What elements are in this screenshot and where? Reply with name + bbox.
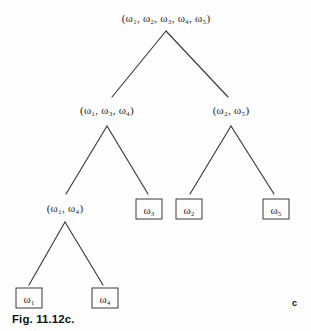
- tree-leaf-omega5: ω₅: [263, 199, 290, 220]
- tree-leaf-omega3: ω₃: [136, 199, 163, 220]
- tree-node-root: (ω₁, ω₂, ω₃, ω₄, ω₅): [122, 12, 211, 24]
- panel-letter: c: [292, 298, 297, 308]
- edge-n25-to-leaf2: [190, 126, 231, 194]
- tree-edges: [0, 0, 311, 331]
- edge-root-to-n25: [166, 31, 228, 97]
- figure-caption: Fig. 11.12c.: [12, 313, 75, 325]
- edge-n25-to-leaf5: [231, 126, 274, 194]
- edge-n134-to-n14: [66, 126, 107, 194]
- tree-leaf-omega2: ω₂: [176, 199, 203, 220]
- tree-leaf-omega1: ω₁: [16, 288, 43, 309]
- edge-n14-to-leaf4: [65, 222, 103, 285]
- edge-root-to-n134: [112, 31, 166, 97]
- edge-n134-to-leaf3: [107, 126, 148, 194]
- tree-node-cluster-14: (ω₁, ω₄): [47, 202, 84, 214]
- tree-leaf-omega4: ω₄: [92, 288, 119, 309]
- edge-n14-to-leaf1: [29, 222, 65, 285]
- tree-node-cluster-25: (ω₂, ω₅): [213, 104, 250, 116]
- figure-canvas: (ω₁, ω₂, ω₃, ω₄, ω₅) (ω₁, ω₃, ω₄) (ω₂, ω…: [0, 0, 311, 331]
- tree-node-cluster-134: (ω₁, ω₃, ω₄): [80, 104, 134, 116]
